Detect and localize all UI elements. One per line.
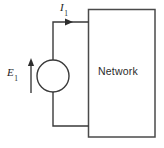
current-label: I1 — [60, 2, 67, 16]
network-block-label: Network — [98, 66, 138, 77]
voltage-source-label: E1 — [7, 67, 17, 81]
circuit-schematic-canvas — [0, 0, 164, 148]
voltage-source-circle — [37, 60, 69, 92]
current-arrow-icon — [65, 19, 73, 26]
voltage-source-symbol: E — [7, 66, 14, 78]
voltage-source-subscript: 1 — [14, 74, 18, 83]
bottom-wire — [53, 92, 88, 126]
circuit-diagram-figure: E1 I1 Network — [0, 0, 164, 148]
voltage-arrow-icon — [28, 58, 34, 66]
top-wire — [53, 22, 88, 60]
current-subscript: 1 — [64, 9, 68, 18]
